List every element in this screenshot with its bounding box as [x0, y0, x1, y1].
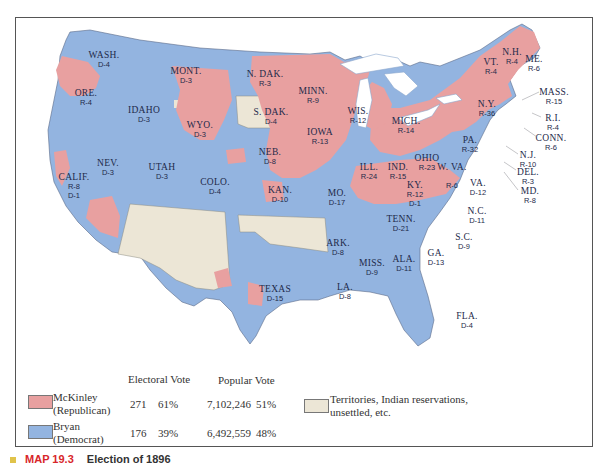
svg-text:GA.: GA.: [428, 248, 445, 258]
territory-label: Territories, Indian reservations, unsett…: [330, 393, 468, 419]
svg-text:D-8: D-8: [339, 292, 351, 301]
svg-text:R-14: R-14: [398, 126, 414, 135]
svg-text:DEL.: DEL.: [517, 167, 539, 177]
legend-header-electoral: Electoral Vote: [128, 373, 190, 385]
svg-text:S.C.: S.C.: [455, 232, 473, 242]
legend-header-popular: Popular Vote: [218, 374, 275, 386]
svg-text:D-4: D-4: [461, 321, 473, 330]
svg-text:W. VA.: W. VA.: [437, 162, 466, 172]
svg-text:KY.: KY.: [407, 180, 423, 190]
svg-text:R-3: R-3: [259, 79, 271, 88]
svg-text:ALA.: ALA.: [392, 254, 415, 264]
svg-text:R-4: R-4: [485, 67, 497, 76]
svg-text:ORE.: ORE.: [75, 88, 98, 98]
svg-text:WASH.: WASH.: [89, 50, 120, 60]
mckinley-popular-votes: 7,102,246: [207, 398, 251, 410]
mckinley-electoral-votes: 271: [130, 398, 147, 410]
svg-text:D-4: D-4: [209, 187, 221, 196]
svg-text:D-9: D-9: [458, 242, 470, 251]
svg-text:MICH.: MICH.: [392, 116, 421, 126]
bryan-electoral-pct: 39%: [158, 427, 178, 439]
svg-text:VT.: VT.: [483, 57, 498, 67]
svg-text:WYO.: WYO.: [187, 120, 213, 130]
svg-text:D-3: D-3: [138, 115, 150, 124]
svg-text:MD.: MD.: [521, 186, 540, 196]
mckinley-name: McKinley (Republican): [53, 391, 110, 417]
svg-text:R-32: R-32: [462, 145, 478, 154]
svg-text:D-1: D-1: [409, 199, 421, 208]
svg-text:D-8: D-8: [332, 248, 344, 257]
svg-text:FLA.: FLA.: [456, 311, 478, 321]
svg-text:R-12: R-12: [350, 116, 366, 125]
svg-text:D-3: D-3: [180, 76, 192, 85]
bryan-popular-pct: 48%: [256, 427, 276, 439]
svg-text:D-21: D-21: [393, 224, 409, 233]
bryan-swatch: [28, 425, 53, 439]
svg-text:R-6: R-6: [446, 181, 458, 190]
svg-text:PA.: PA.: [463, 135, 478, 145]
svg-text:D-3: D-3: [194, 130, 206, 139]
svg-text:R.I.: R.I.: [545, 113, 560, 123]
svg-text:R-13: R-13: [312, 137, 328, 146]
candidate-party: (Republican): [53, 404, 110, 417]
candidate-name: Bryan: [53, 420, 104, 433]
svg-text:R-15: R-15: [390, 172, 406, 181]
svg-text:R-3: R-3: [522, 177, 534, 186]
mckinley-popular-pct: 51%: [256, 398, 276, 410]
mckinley-electoral-pct: 61%: [158, 398, 178, 410]
svg-text:D-4: D-4: [98, 60, 110, 69]
svg-text:R-15: R-15: [546, 97, 562, 106]
svg-text:D-11: D-11: [469, 216, 485, 225]
svg-text:R-9: R-9: [307, 96, 319, 105]
bryan-name: Bryan (Democrat): [53, 420, 104, 446]
svg-text:TEXAS: TEXAS: [259, 284, 291, 294]
svg-text:N.J.: N.J.: [520, 150, 537, 160]
territory-label-line2: unsettled, etc.: [330, 406, 468, 419]
svg-text:R-23: R-23: [419, 163, 435, 172]
svg-text:IND.: IND.: [388, 162, 408, 172]
svg-text:MO.: MO.: [328, 188, 347, 198]
candidate-party: (Democrat): [53, 433, 104, 446]
svg-text:D-3: D-3: [156, 172, 168, 181]
svg-text:N.Y.: N.Y.: [478, 99, 496, 109]
svg-text:UTAH: UTAH: [149, 162, 176, 172]
svg-text:D-11: D-11: [396, 264, 412, 273]
svg-text:IOWA: IOWA: [307, 127, 333, 137]
svg-text:R-4: R-4: [547, 123, 559, 132]
svg-text:NEV.: NEV.: [97, 158, 119, 168]
territory-swatch: [304, 399, 329, 413]
bryan-popular-votes: 6,492,559: [207, 427, 251, 439]
svg-text:R-4: R-4: [80, 98, 92, 107]
svg-text:R-36: R-36: [479, 109, 495, 118]
svg-text:N.C.: N.C.: [467, 206, 486, 216]
territory-label-line1: Territories, Indian reservations,: [330, 393, 468, 406]
svg-text:D-15: D-15: [267, 294, 283, 303]
svg-text:WIS.: WIS.: [348, 106, 369, 116]
svg-text:MASS.: MASS.: [539, 87, 569, 97]
caption-title: Election of 1896: [87, 453, 171, 464]
svg-text:R-6: R-6: [528, 64, 540, 73]
svg-text:D-1: D-1: [68, 191, 80, 200]
svg-text:CALIF.: CALIF.: [59, 172, 90, 182]
svg-text:ARK.: ARK.: [326, 238, 350, 248]
bryan-electoral-votes: 176: [130, 427, 147, 439]
svg-text:MINN.: MINN.: [298, 86, 327, 96]
svg-text:N. DAK.: N. DAK.: [247, 69, 284, 79]
svg-text:R-4: R-4: [506, 57, 518, 66]
svg-text:D-9: D-9: [366, 268, 378, 277]
svg-text:D-12: D-12: [470, 188, 486, 197]
candidate-name: McKinley: [53, 391, 110, 404]
svg-text:ME.: ME.: [525, 54, 543, 64]
svg-text:ILL.: ILL.: [360, 162, 378, 172]
caption-number: MAP 19.3: [25, 453, 74, 464]
svg-text:TENN.: TENN.: [386, 214, 415, 224]
territory-arizona-newmexico: [118, 204, 230, 290]
svg-text:D-13: D-13: [428, 258, 444, 267]
svg-text:R-8: R-8: [68, 182, 80, 191]
svg-text:N.H.: N.H.: [502, 47, 522, 57]
svg-text:MONT.: MONT.: [170, 66, 201, 76]
svg-text:D-4: D-4: [265, 117, 277, 126]
svg-text:D-17: D-17: [329, 198, 345, 207]
svg-text:COLO.: COLO.: [200, 177, 230, 187]
svg-text:KAN.: KAN.: [268, 185, 292, 195]
